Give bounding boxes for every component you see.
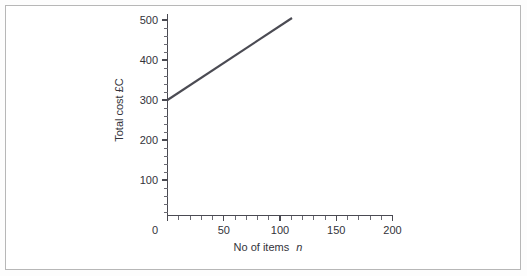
y-axis: 500 400 300 200 100 Total cost £C — [113, 14, 168, 216]
y-tick-label-400: 400 — [140, 54, 158, 66]
x-tick-label-150: 150 — [327, 224, 345, 236]
x-axis-title-text: No of items — [234, 241, 290, 253]
x-tick-label-0: 0 — [152, 224, 158, 236]
y-tick-label-100: 100 — [140, 174, 158, 186]
x-tick-label-200: 200 — [383, 224, 401, 236]
figure-container: 500 400 300 200 100 Total cost £C — [0, 0, 527, 276]
line-chart: 500 400 300 200 100 Total cost £C — [0, 0, 527, 276]
y-tick-label-300: 300 — [140, 94, 158, 106]
x-tick-label-50: 50 — [218, 224, 230, 236]
series-total-cost — [168, 18, 293, 100]
y-tick-label-200: 200 — [140, 134, 158, 146]
y-axis-title: Total cost £C — [113, 78, 125, 142]
y-axis-minor-ticks — [164, 28, 168, 212]
series-group — [168, 18, 293, 100]
x-tick-label-100: 100 — [271, 224, 289, 236]
x-axis: 0 50 100 150 200 No of items n — [152, 216, 402, 254]
x-axis-title: No of items n — [234, 241, 303, 253]
x-axis-title-symbol: n — [296, 241, 302, 253]
y-tick-label-500: 500 — [140, 14, 158, 26]
